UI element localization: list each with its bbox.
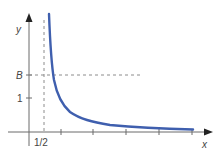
y-axis-arrow-icon xyxy=(26,13,33,22)
x-tick-label-half: 1/2 xyxy=(34,137,48,148)
y-axis-label: y xyxy=(15,24,22,35)
x-axis-arrow-icon xyxy=(204,129,213,136)
hyperbola-curve xyxy=(49,14,193,130)
x-axis-label: x xyxy=(201,139,208,150)
hyperbola-graph: y x B 1 1/2 xyxy=(0,0,221,153)
y-tick-label-B: B xyxy=(16,70,23,81)
y-tick-label-1: 1 xyxy=(17,93,23,104)
